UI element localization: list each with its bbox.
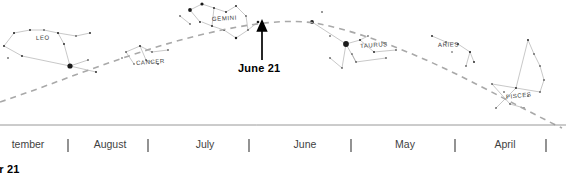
sky-canvas	[0, 0, 573, 180]
clipped-date-annotation: ber 21	[0, 163, 20, 175]
month-label-july: July	[165, 138, 245, 150]
constellation-label-leo: LEO	[36, 35, 50, 41]
month-label-april: April	[465, 138, 545, 150]
month-label-september: tember	[0, 138, 60, 150]
constellation-lines	[4, 4, 544, 108]
june-21-annotation: June 21	[238, 62, 280, 74]
star-pollux	[200, 2, 203, 5]
star-aldebaran	[343, 41, 349, 47]
star-chart-figure: LEO CANCER GEMINI TAURUS ARIES PISCES Ju…	[0, 0, 573, 180]
star-regulus	[67, 63, 72, 68]
stars-layer	[3, 2, 545, 108]
month-label-may: May	[365, 138, 445, 150]
ecliptic-dashed-curve	[0, 21, 562, 128]
month-label-june: June	[265, 138, 345, 150]
month-label-august: August	[70, 138, 150, 150]
june-21-arrow	[258, 21, 267, 60]
constellation-label-aries: ARIES	[438, 41, 459, 48]
star-castor	[188, 8, 192, 12]
